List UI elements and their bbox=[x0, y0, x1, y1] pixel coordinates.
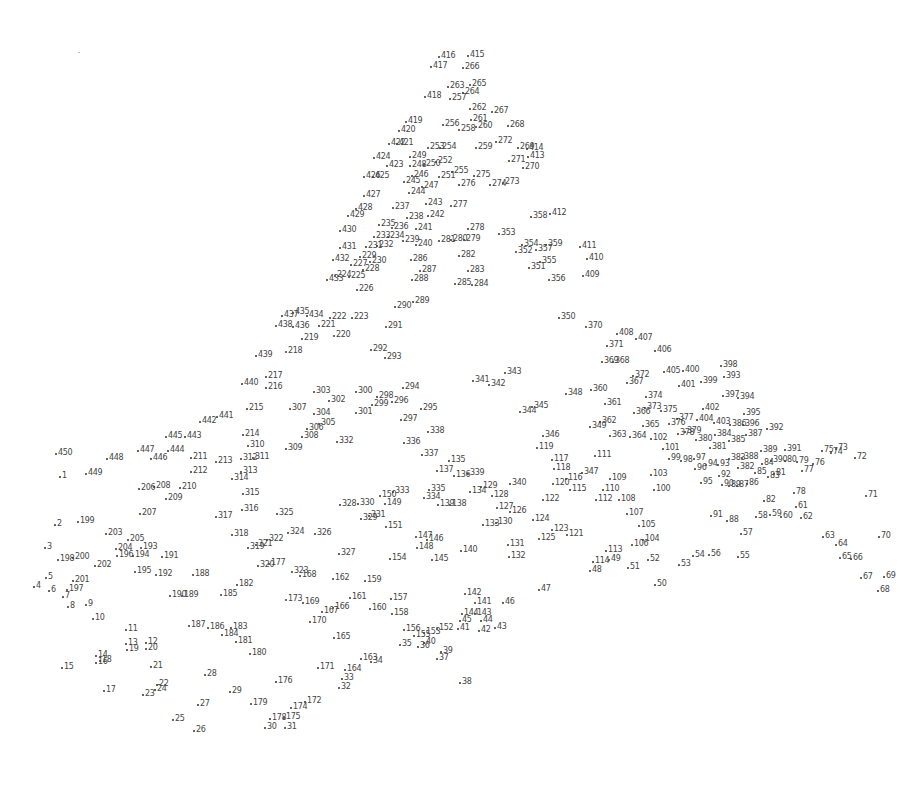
dot-269 bbox=[517, 147, 519, 149]
dot-label: 215 bbox=[249, 404, 263, 412]
dot-369 bbox=[601, 361, 603, 363]
dot-label: 31 bbox=[287, 723, 297, 731]
dot-448 bbox=[106, 458, 108, 460]
dot-411 bbox=[579, 246, 581, 248]
dot-3 bbox=[44, 547, 46, 549]
dot-276 bbox=[458, 184, 460, 186]
dot-label: 102 bbox=[653, 434, 667, 442]
dot-label: 272 bbox=[498, 137, 512, 145]
dot-406 bbox=[654, 350, 656, 352]
dot-label: 214 bbox=[245, 430, 259, 438]
dot-193 bbox=[140, 547, 142, 549]
dot-label: 350 bbox=[561, 313, 575, 321]
dot-label: 53 bbox=[681, 560, 691, 568]
dot-187 bbox=[188, 625, 190, 627]
dot-449 bbox=[85, 473, 87, 475]
dot-label: 44 bbox=[483, 616, 493, 624]
dot-label: 323 bbox=[294, 567, 308, 575]
dot-46 bbox=[502, 602, 504, 604]
dot-label: 35 bbox=[402, 640, 412, 648]
dot-label: 392 bbox=[769, 424, 783, 432]
dot-320 bbox=[257, 565, 259, 567]
dot-127 bbox=[496, 507, 498, 509]
dot-label: 195 bbox=[137, 567, 151, 575]
dot-296 bbox=[391, 401, 393, 403]
dot-145 bbox=[431, 559, 433, 561]
dot-label: 270 bbox=[525, 163, 539, 171]
dot-label: 416 bbox=[441, 52, 455, 60]
dot-label: 24 bbox=[157, 685, 167, 693]
dot-336 bbox=[403, 442, 405, 444]
dot-label: 315 bbox=[245, 489, 259, 497]
dot-label: 97 bbox=[696, 454, 706, 462]
dot-385 bbox=[728, 440, 730, 442]
dot-label: 411 bbox=[582, 242, 596, 250]
dot-16 bbox=[95, 662, 97, 664]
dot-label: 340 bbox=[512, 479, 526, 487]
dot-136 bbox=[453, 475, 455, 477]
dot-label: 307 bbox=[292, 404, 306, 412]
dot-label: 429 bbox=[350, 211, 364, 219]
dot-399 bbox=[700, 381, 702, 383]
dot-374 bbox=[645, 396, 647, 398]
dot-label: 320 bbox=[260, 561, 274, 569]
dot-label: 335 bbox=[431, 485, 445, 493]
dot-223 bbox=[351, 317, 353, 319]
dot-label: 124 bbox=[535, 515, 549, 523]
dot-52 bbox=[647, 559, 649, 561]
dot-label: 256 bbox=[445, 120, 459, 128]
dot-label: 125 bbox=[541, 534, 555, 542]
dot-label: 355 bbox=[542, 257, 556, 265]
dot-label: 118 bbox=[556, 464, 570, 472]
dot-label: 19 bbox=[129, 645, 139, 653]
dot-label: 228 bbox=[365, 265, 379, 273]
dot-380 bbox=[695, 439, 697, 441]
dot-label: 171 bbox=[320, 663, 334, 671]
dot-label: 172 bbox=[307, 697, 321, 705]
dot-label: 159 bbox=[367, 576, 381, 584]
dot-label: 352 bbox=[518, 247, 532, 255]
dot-label: 296 bbox=[394, 397, 408, 405]
dot-314 bbox=[231, 478, 233, 480]
dot-324 bbox=[287, 532, 289, 534]
dot-label: 247 bbox=[424, 182, 438, 190]
dot-label: 137 bbox=[439, 466, 453, 474]
dot-label: 412 bbox=[552, 209, 566, 217]
dot-label: 144 bbox=[464, 609, 478, 617]
dot-254 bbox=[439, 147, 441, 149]
dot-27 bbox=[197, 704, 199, 706]
dot-420 bbox=[398, 130, 400, 132]
dot-121 bbox=[566, 534, 568, 536]
dot-label: 338 bbox=[430, 427, 444, 435]
dot-label: 439 bbox=[258, 351, 272, 359]
dot-label: 263 bbox=[450, 82, 464, 90]
dot-365 bbox=[642, 425, 644, 427]
dot-label: 18 bbox=[102, 656, 112, 664]
dot-165 bbox=[333, 637, 335, 639]
dot-label: 220 bbox=[336, 331, 350, 339]
dot-292 bbox=[370, 349, 372, 351]
dot-label: 426 bbox=[366, 172, 380, 180]
dot-142 bbox=[464, 593, 466, 595]
dot-96 bbox=[694, 468, 696, 470]
dot-19 bbox=[126, 649, 128, 651]
dot-label: 107 bbox=[629, 509, 643, 517]
dot-label: 356 bbox=[551, 275, 565, 283]
dot-412 bbox=[549, 213, 551, 215]
dot-235 bbox=[378, 224, 380, 226]
dot-label: 342 bbox=[491, 380, 505, 388]
dot-131 bbox=[507, 544, 509, 546]
dot-100 bbox=[653, 489, 655, 491]
dot-label: 209 bbox=[168, 494, 182, 502]
dot-label: 354 bbox=[524, 240, 538, 248]
dot-label: 204 bbox=[118, 544, 132, 552]
dot-label: 449 bbox=[88, 469, 102, 477]
dot-label: 259 bbox=[478, 143, 492, 151]
dot-219 bbox=[301, 338, 303, 340]
dot-label: 396 bbox=[745, 420, 759, 428]
dot-label: 208 bbox=[156, 482, 170, 490]
dot-label: 92 bbox=[721, 471, 731, 479]
dot-label: 154 bbox=[392, 554, 406, 562]
dot-124 bbox=[532, 519, 534, 521]
dot-184 bbox=[221, 634, 223, 636]
